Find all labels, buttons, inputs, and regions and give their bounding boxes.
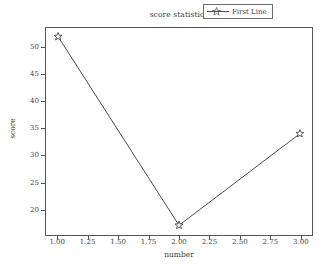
legend-star-icon: [207, 7, 229, 16]
chart-figure: score statistics score number 2025303540…: [0, 0, 332, 278]
x-axis-tick-mark: [179, 236, 180, 240]
page-title: score statistics: [45, 10, 313, 19]
x-axis-tick-mark: [57, 236, 58, 240]
x-axis-tick-mark: [209, 236, 210, 240]
y-axis-tick-marks: [0, 27, 45, 236]
x-axis-tick-mark: [88, 236, 89, 240]
plot-series-area: [46, 28, 312, 235]
legend[interactable]: First Line: [203, 4, 273, 19]
x-axis-tick-marks: [45, 236, 313, 241]
legend-entry-label: First Line: [232, 8, 267, 16]
x-axis-tick-mark: [240, 236, 241, 240]
x-axis-tick-mark: [301, 236, 302, 240]
plot-frame: [45, 27, 313, 236]
series-line: [58, 37, 300, 226]
x-axis-tick-mark: [118, 236, 119, 240]
x-axis-tick-mark: [270, 236, 271, 240]
data-point-star-icon: [175, 221, 183, 229]
data-point-star-icon: [54, 32, 62, 40]
x-axis-label: number: [45, 250, 313, 259]
x-axis-tick-mark: [149, 236, 150, 240]
